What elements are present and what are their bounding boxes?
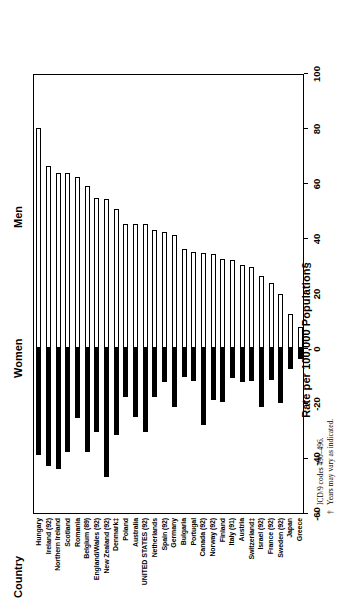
footnote: †Years may vary as indicated. — [326, 419, 336, 514]
category-label: Norway (92) — [209, 518, 216, 557]
category-label: Switzerland‡ — [247, 518, 254, 560]
axis-tick-label: 80 — [311, 124, 322, 135]
plot-area — [33, 74, 304, 514]
category-label: Netherlands — [150, 518, 157, 557]
category-label: Belgium (89) — [83, 518, 90, 559]
axis-tick-label: 20 — [311, 289, 322, 300]
category-label: Japan — [286, 518, 293, 538]
bar-group — [34, 75, 303, 513]
legend-label-women: Women — [12, 338, 24, 378]
value-axis-title: Rate per 100,000 Population§ — [300, 70, 312, 610]
category-axis-labels: HungaryIreland (92)Northern IrelandScotl… — [33, 514, 304, 610]
footnote-text: ICD/9 codes 490–496. — [316, 437, 325, 505]
category-label: Canada (92) — [199, 518, 206, 557]
category-label: Austria — [238, 518, 245, 541]
category-label: Israel (92) — [257, 518, 264, 550]
category-label: Italy (91) — [228, 518, 235, 545]
footnote: *ICD/9 codes 490–496. — [316, 419, 326, 514]
axis-tick-label: 40 — [311, 234, 322, 245]
chart-figure: Country Women Men -60-40-20020406080100 … — [0, 0, 337, 610]
category-label: Scotland — [63, 518, 70, 547]
category-label: Hungary — [34, 518, 41, 546]
footnote-text: Years may vary as indicated. — [326, 419, 335, 505]
axis-tick-label: 60 — [311, 179, 322, 190]
category-label: Australia — [131, 518, 138, 547]
category-label: Spain (92) — [160, 518, 167, 550]
country-axis-title: Country — [12, 556, 24, 598]
category-label: Poland — [121, 518, 128, 541]
category-label: Portugal — [189, 518, 196, 546]
category-label: Northern Ireland — [54, 518, 61, 571]
axis-tick-label: -20 — [311, 397, 322, 411]
footnote-marker: † — [326, 505, 336, 514]
legend-label-men: Men — [12, 206, 24, 228]
category-label: Romania — [73, 518, 80, 547]
category-label: Sweden (92) — [276, 518, 283, 558]
category-label: Ireland (92) — [44, 518, 51, 554]
category-label: UNITED STATES (92) — [141, 518, 148, 585]
footnotes: *ICD/9 codes 490–496.†Years may vary as … — [316, 419, 336, 514]
category-label: Germany — [170, 518, 177, 548]
category-label: Bulgaria — [180, 518, 187, 545]
bars-layer — [34, 75, 303, 513]
category-label: Finland — [218, 518, 225, 542]
category-label: France (92) — [267, 518, 274, 554]
footnote-marker: * — [316, 505, 326, 514]
category-label: England/Wales (92) — [92, 518, 99, 580]
category-label: New Zealand (92) — [102, 518, 109, 574]
axis-tick-label: 0 — [311, 346, 322, 351]
axis-tick-label: 100 — [311, 66, 322, 82]
category-label: Denmark‡ — [112, 518, 119, 551]
